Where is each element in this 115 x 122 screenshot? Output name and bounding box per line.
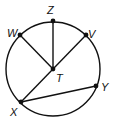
label-y: Y — [101, 81, 109, 93]
segment-tw — [20, 35, 53, 69]
point-w — [18, 33, 23, 38]
label-x: X — [9, 106, 18, 118]
point-y — [94, 84, 99, 89]
point-t — [51, 67, 56, 72]
label-w: W — [7, 27, 19, 39]
point-z — [51, 19, 56, 24]
point-x — [19, 100, 24, 105]
circle-diagram: Z W V T X Y — [0, 0, 115, 122]
label-z: Z — [46, 4, 55, 16]
label-t: T — [56, 72, 64, 84]
label-v: V — [88, 28, 97, 40]
segment-xy — [21, 86, 96, 102]
